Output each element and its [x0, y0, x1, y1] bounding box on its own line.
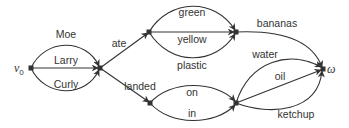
edge-label: plastic — [177, 59, 207, 71]
edge-label: in — [188, 107, 196, 119]
node-n1 — [98, 66, 103, 71]
edge-label: Curly — [54, 78, 79, 90]
node-n5 — [234, 101, 239, 106]
edge-label: green — [179, 6, 206, 18]
edge-label: Moe — [56, 28, 77, 40]
edge-label: Larry — [54, 54, 79, 66]
edge-label: landed — [124, 80, 156, 92]
node-n4 — [234, 30, 239, 35]
node-omega — [321, 67, 326, 72]
word-lattice-diagram: MoeLarryCurlyatelandedgreenyellowplastic… — [0, 0, 349, 128]
edge-label: bananas — [257, 17, 297, 29]
node-label-omega: ω — [327, 62, 335, 76]
edge-label: ate — [112, 37, 127, 49]
node-v0 — [29, 66, 34, 71]
node-n3 — [148, 101, 153, 106]
labels-layer: MoeLarryCurlyatelandedgreenyellowplastic… — [14, 6, 335, 120]
edge-label: yellow — [177, 33, 207, 45]
edge-label: oil — [275, 70, 286, 82]
node-label-v0: v0 — [14, 61, 24, 77]
edge-label: ketchup — [278, 108, 315, 120]
node-n2 — [147, 30, 152, 35]
edge-label: on — [186, 86, 198, 98]
edge-label: water — [251, 48, 278, 60]
